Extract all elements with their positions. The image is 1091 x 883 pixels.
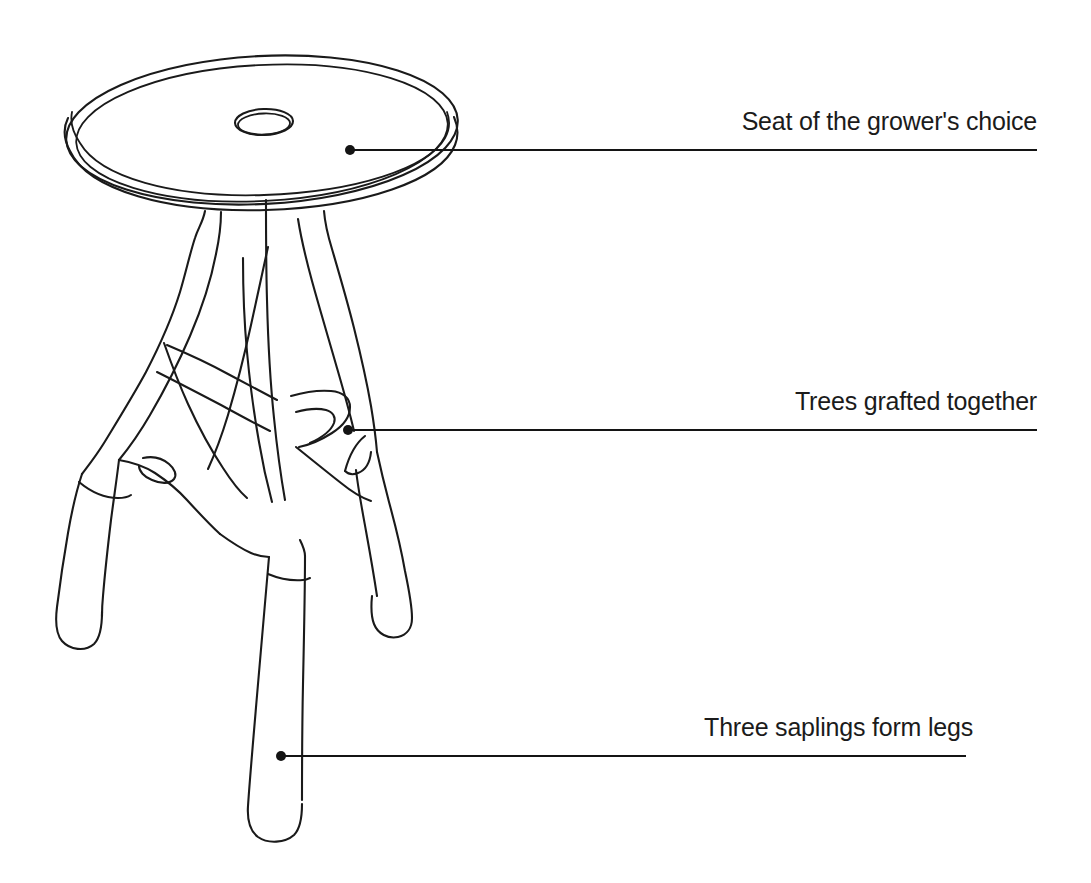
trunk-center-spine <box>266 200 285 500</box>
front-leg-left-edge <box>248 557 302 842</box>
right-leg-inner <box>356 470 377 596</box>
callout-label-legs: Three saplings form legs <box>704 714 973 742</box>
diagram-canvas: Seat of the grower's choice Trees grafte… <box>0 0 1091 883</box>
leader-dot-graft <box>343 425 353 435</box>
legs-group <box>56 436 412 842</box>
front-leg-graft-band <box>268 574 310 580</box>
trunk-left-inner-contour <box>119 212 221 460</box>
trunk-inner-wedge <box>208 247 268 469</box>
left-leg-inner <box>102 460 119 616</box>
callout-leaders <box>276 145 1037 761</box>
seat-group <box>62 46 461 214</box>
trunk-graft-group <box>82 200 377 557</box>
front-leg-junction-right <box>300 540 305 556</box>
left-leg-joint <box>119 460 220 534</box>
right-leg-outer <box>371 452 412 637</box>
callout-label-seat: Seat of the grower's choice <box>742 108 1037 136</box>
graft-curl-branch-inner <box>296 409 335 443</box>
front-leg-junction-left <box>220 534 269 557</box>
callout-label-graft: Trees grafted together <box>795 388 1037 416</box>
seat-top-surface <box>62 46 461 214</box>
seat-bevel-ring <box>73 55 452 210</box>
leader-dot-legs <box>276 751 286 761</box>
seat-rim-line <box>71 112 449 195</box>
right-leg-top-joint <box>345 436 365 471</box>
seat-edge-thickness <box>65 117 458 210</box>
trunk-right-inner-contour <box>298 219 354 431</box>
left-leg-graft-band <box>79 482 131 498</box>
right-leg-graft-band <box>345 452 371 474</box>
branch-left-nub <box>139 457 175 483</box>
front-leg-right-edge <box>302 556 305 800</box>
left-leg-outer <box>56 474 102 649</box>
leader-dot-seat <box>345 145 355 155</box>
